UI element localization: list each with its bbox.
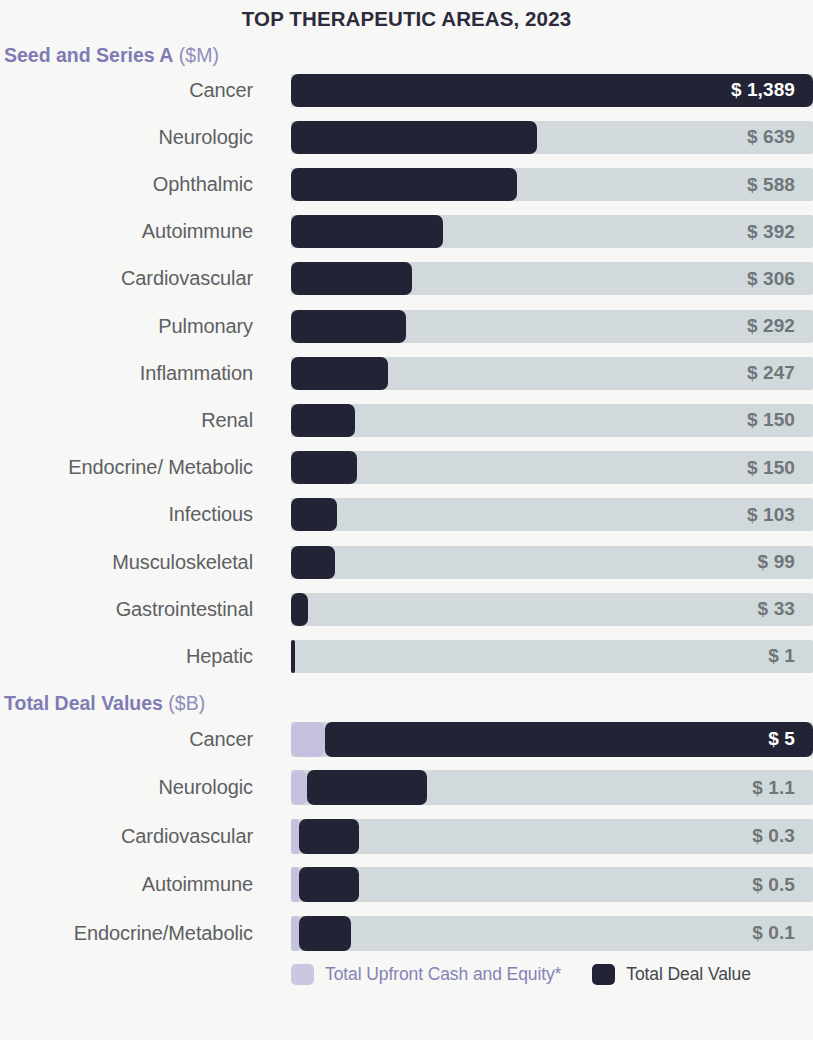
bar-track: $ 150 bbox=[291, 451, 813, 484]
bar-track: $ 1.1 bbox=[291, 770, 813, 805]
bar-row: Endocrine/ Metabolic$ 150 bbox=[0, 444, 813, 491]
bar-segment-value bbox=[291, 262, 412, 295]
bar-track-wrap: $ 0.5 bbox=[291, 860, 813, 909]
bar-value-label: $ 150 bbox=[747, 409, 795, 431]
bar-track-wrap: $ 99 bbox=[291, 538, 813, 585]
bar-segment-value bbox=[291, 168, 517, 201]
legend-label: Total Upfront Cash and Equity* bbox=[325, 964, 561, 985]
bar-track: $ 1,389 bbox=[291, 74, 813, 107]
bar-track-wrap: $ 306 bbox=[291, 255, 813, 302]
section1-unit: ($M) bbox=[173, 44, 219, 66]
section2-unit: ($B) bbox=[163, 692, 205, 714]
bar-row: Gastrointestinal$ 33 bbox=[0, 586, 813, 633]
bar-value-label: $ 639 bbox=[747, 126, 795, 148]
legend-swatch-upfront-icon bbox=[291, 964, 314, 985]
bar-track-wrap: $ 247 bbox=[291, 350, 813, 397]
bar-segment-value bbox=[291, 121, 537, 154]
bar-track-wrap: $ 392 bbox=[291, 208, 813, 255]
section-heading-seed-series-a: Seed and Series A ($M) bbox=[0, 44, 813, 67]
bar-value-label: $ 588 bbox=[747, 174, 795, 196]
chart-page: TOP THERAPEUTIC AREAS, 2023 Seed and Ser… bbox=[0, 0, 813, 1040]
bar-value-label: $ 0.3 bbox=[752, 825, 795, 847]
bar-row: Pulmonary$ 292 bbox=[0, 302, 813, 349]
bar-segment-upfront bbox=[291, 770, 307, 805]
bar-row: Cardiovascular$ 306 bbox=[0, 255, 813, 302]
bar-track-wrap: $ 1,389 bbox=[291, 67, 813, 114]
bar-segment-value bbox=[291, 546, 335, 579]
bar-track-wrap: $ 292 bbox=[291, 302, 813, 349]
bar-segment-upfront bbox=[291, 867, 299, 902]
bar-row-label: Cardiovascular bbox=[0, 267, 253, 290]
bar-track: $ 306 bbox=[291, 262, 813, 295]
bar-row-label: Autoimmune bbox=[0, 873, 253, 896]
bar-value-label: $ 0.5 bbox=[752, 874, 795, 896]
bar-row-label: Endocrine/ Metabolic bbox=[0, 456, 253, 479]
bar-value-label: $ 103 bbox=[747, 504, 795, 526]
bar-segment-value bbox=[291, 215, 443, 248]
bar-track-wrap: $ 150 bbox=[291, 444, 813, 491]
bar-row: Autoimmune$ 392 bbox=[0, 208, 813, 255]
bar-track: $ 392 bbox=[291, 215, 813, 248]
bar-row: Renal$ 150 bbox=[0, 397, 813, 444]
bar-track-wrap: $ 1.1 bbox=[291, 763, 813, 812]
bar-track: $ 150 bbox=[291, 404, 813, 437]
bar-track: $ 247 bbox=[291, 357, 813, 390]
bar-row-label: Endocrine/Metabolic bbox=[0, 922, 253, 945]
bar-segment-value bbox=[291, 451, 357, 484]
bar-row-label: Inflammation bbox=[0, 362, 253, 385]
bar-value-label: $ 99 bbox=[758, 551, 795, 573]
bar-value-label: $ 247 bbox=[747, 362, 795, 384]
bar-track: $ 0.5 bbox=[291, 867, 813, 902]
bar-segment-value bbox=[291, 357, 388, 390]
bar-row-label: Hepatic bbox=[0, 645, 253, 668]
bar-segment-upfront bbox=[291, 722, 325, 757]
bar-row: Endocrine/Metabolic$ 0.1 bbox=[0, 909, 813, 958]
bar-segment-value bbox=[291, 404, 355, 437]
bar-segment-value bbox=[307, 770, 427, 805]
page-title: TOP THERAPEUTIC AREAS, 2023 bbox=[0, 0, 813, 31]
bar-row-label: Ophthalmic bbox=[0, 173, 253, 196]
bar-track: $ 5 bbox=[291, 722, 813, 757]
bar-value-label: $ 392 bbox=[747, 221, 795, 243]
bar-row-label: Cancer bbox=[0, 728, 253, 751]
legend-item: Total Deal Value bbox=[592, 964, 751, 985]
bar-segment-value bbox=[291, 640, 295, 673]
legend-item: Total Upfront Cash and Equity* bbox=[291, 964, 561, 985]
seed-series-a-bar-list: Cancer$ 1,389Neurologic$ 639Ophthalmic$ … bbox=[0, 67, 813, 680]
bar-segment-value bbox=[299, 867, 359, 902]
bar-row: Autoimmune$ 0.5 bbox=[0, 860, 813, 909]
bar-row-label: Neurologic bbox=[0, 776, 253, 799]
bar-track: $ 639 bbox=[291, 121, 813, 154]
bar-row-label: Cancer bbox=[0, 79, 253, 102]
bar-row: Neurologic$ 639 bbox=[0, 114, 813, 161]
bar-row: Cancer$ 1,389 bbox=[0, 67, 813, 114]
bar-value-label: $ 306 bbox=[747, 268, 795, 290]
bar-segment-value bbox=[325, 722, 813, 757]
legend-label: Total Deal Value bbox=[626, 964, 751, 985]
bar-row-label: Gastrointestinal bbox=[0, 598, 253, 621]
bar-row: Infectious$ 103 bbox=[0, 491, 813, 538]
bar-track: $ 588 bbox=[291, 168, 813, 201]
total-deal-values-bar-list: Cancer$ 5Neurologic$ 1.1Cardiovascular$ … bbox=[0, 715, 813, 958]
bar-track-wrap: $ 0.1 bbox=[291, 909, 813, 958]
bar-track: $ 99 bbox=[291, 546, 813, 579]
bar-track: $ 0.3 bbox=[291, 819, 813, 854]
bar-track-wrap: $ 103 bbox=[291, 491, 813, 538]
bar-track-wrap: $ 588 bbox=[291, 161, 813, 208]
bar-row-label: Musculoskeletal bbox=[0, 551, 253, 574]
bar-row: Cardiovascular$ 0.3 bbox=[0, 812, 813, 861]
bar-segment-upfront bbox=[291, 819, 299, 854]
chart-legend: Total Upfront Cash and Equity*Total Deal… bbox=[0, 964, 813, 985]
bar-segment-value bbox=[299, 916, 351, 951]
bar-row-label: Neurologic bbox=[0, 126, 253, 149]
bar-value-label: $ 1,389 bbox=[731, 79, 795, 101]
section2-title: Total Deal Values bbox=[4, 692, 163, 714]
bar-segment-value bbox=[299, 819, 359, 854]
bar-track-wrap: $ 150 bbox=[291, 397, 813, 444]
bar-row: Ophthalmic$ 588 bbox=[0, 161, 813, 208]
bar-segment-value bbox=[291, 593, 308, 626]
bar-row: Musculoskeletal$ 99 bbox=[0, 538, 813, 585]
bar-track: $ 103 bbox=[291, 498, 813, 531]
bar-value-label: $ 0.1 bbox=[752, 922, 795, 944]
section-heading-total-deal-values: Total Deal Values ($B) bbox=[0, 692, 813, 715]
